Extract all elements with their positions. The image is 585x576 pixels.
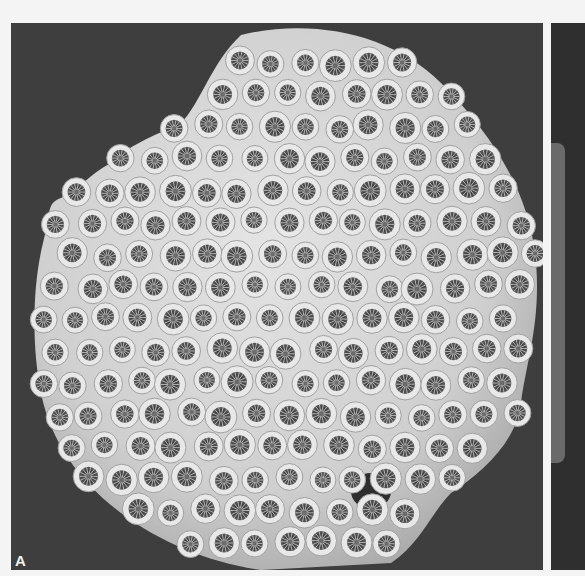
panel-b-subject-edge (551, 143, 565, 463)
figure-panel-b (551, 23, 585, 570)
coral-photo (11, 23, 543, 570)
figure-panel-a: A (11, 23, 543, 570)
panel-label-a: A (15, 553, 26, 568)
